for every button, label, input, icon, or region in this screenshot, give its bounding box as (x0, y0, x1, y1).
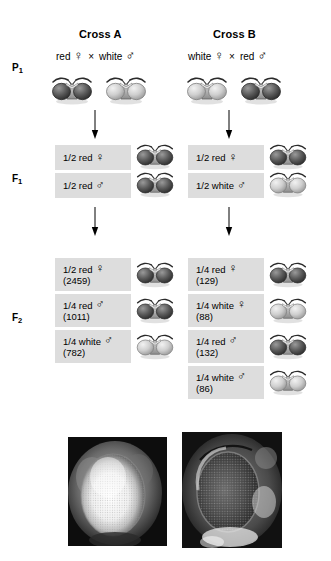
fly-head-icon-cross-a-f2-1 (134, 261, 176, 289)
mars-symbol: ♂ (96, 179, 105, 191)
ratio-text: 1/2 red (63, 152, 93, 163)
ratio-text: 1/4 white (196, 300, 234, 311)
cross-b-f2-row-2-count: (88) (196, 311, 258, 322)
fly-head-icon-cross-b-p1-mother (184, 76, 230, 106)
ratio-text: 1/4 red (63, 300, 93, 311)
cross-b-parental-cross-text: white ♀ × red ♂ (188, 50, 267, 63)
venus-symbol: ♀ (96, 151, 105, 163)
arrow-cross-a-f1-to-f2 (90, 207, 100, 237)
white-eye-photo (68, 437, 167, 546)
ratio-text: 1/4 red (196, 264, 226, 275)
mars-symbol: ♂ (96, 298, 105, 310)
cross-b-f2-row-1-count: (129) (196, 275, 258, 286)
ratio-text: 1/2 red (196, 152, 226, 163)
cross-a-f1-row-2-label: 1/2 red ♂ (63, 180, 125, 192)
fly-head-icon-cross-b-f2-4 (267, 369, 309, 397)
cross-b-f2-row-3: 1/4 red ♂ (132) (188, 330, 264, 363)
cross-symbol: × (229, 51, 235, 62)
cross-a-father-phenotype: white (99, 51, 122, 62)
ratio-text: 1/2 white (196, 180, 234, 191)
cross-symbol: × (88, 51, 94, 62)
fly-head-icon-cross-b-p1-father (238, 76, 284, 106)
ratio-text: 1/2 red (63, 264, 93, 275)
cross-a-f2-row-3: 1/4 white ♂ (782) (55, 330, 131, 363)
fly-head-icon-cross-a-f2-3 (134, 333, 176, 361)
fly-head-icon-cross-b-f2-3 (267, 333, 309, 361)
generation-label-f2: F2 (12, 312, 22, 323)
generation-label-f2-sub: 2 (18, 316, 22, 325)
cross-a-f2-row-2: 1/4 red ♂ (1011) (55, 294, 131, 327)
cross-b-f1-row-1-label: 1/2 red ♀ (196, 152, 258, 164)
fly-head-icon-cross-b-f2-2 (267, 297, 309, 325)
fly-head-icon-cross-a-p1-father (103, 76, 149, 106)
cross-b-f2-row-1-label: 1/4 red ♀ (196, 263, 258, 275)
cross-b-f2-row-4: 1/4 white ♂ (86) (188, 366, 264, 399)
arrow-cross-b-p1-to-f1 (224, 110, 234, 140)
cross-a-title: Cross A (79, 28, 121, 40)
cross-b-mother-phenotype: white (188, 51, 211, 62)
fly-head-icon-cross-a-f1-1 (134, 143, 176, 171)
cross-a-f1-row-1-label: 1/2 red ♀ (63, 152, 125, 164)
cross-a-f2-row-2-label: 1/4 red ♂ (63, 299, 125, 311)
cross-b-title: Cross B (213, 28, 256, 40)
cross-a-parental-cross-text: red ♀ × white ♂ (56, 50, 135, 63)
cross-b-father-phenotype: red (240, 51, 254, 62)
cross-a-f1-row-1: 1/2 red ♀ (55, 145, 131, 170)
generation-label-f1: F1 (12, 173, 22, 184)
cross-b-f1-row-2: 1/2 white ♂ (188, 173, 264, 198)
arrow-cross-a-p1-to-f1 (90, 110, 100, 140)
mars-symbol: ♂ (104, 334, 113, 346)
fly-head-icon-cross-b-f2-1 (267, 261, 309, 289)
venus-symbol: ♀ (229, 151, 238, 163)
cross-b-f2-row-3-label: 1/4 red ♂ (196, 335, 258, 347)
fly-head-icon-cross-b-f1-1 (267, 143, 309, 171)
mars-symbol: ♂ (237, 370, 246, 382)
red-eye-photo (182, 432, 282, 548)
cross-a-f2-row-1: 1/2 red ♀ (2459) (55, 258, 131, 291)
generation-label-p1-text: P (12, 62, 19, 73)
fly-head-icon-cross-a-f2-2 (134, 297, 176, 325)
cross-a-f2-row-1-label: 1/2 red ♀ (63, 263, 125, 275)
cross-b-f2-row-2: 1/4 white ♀ (88) (188, 294, 264, 327)
fly-head-icon-cross-a-f1-2 (134, 171, 176, 199)
ratio-text: 1/4 white (196, 372, 234, 383)
venus-symbol: ♀ (229, 262, 238, 274)
venus-symbol: ♀ (237, 298, 246, 310)
fly-head-icon-cross-a-p1-mother (49, 76, 95, 106)
cross-b-f2-row-3-count: (132) (196, 347, 258, 358)
fly-head-icon-cross-b-f1-2 (267, 171, 309, 199)
cross-b-f2-row-4-count: (86) (196, 383, 258, 394)
ratio-text: 1/4 red (196, 336, 226, 347)
generation-label-f1-sub: 1 (18, 177, 22, 186)
generation-label-p1: P1 (12, 62, 23, 73)
cross-a-f2-row-3-label: 1/4 white ♂ (63, 335, 125, 347)
cross-a-f2-row-1-count: (2459) (63, 275, 125, 286)
mars-symbol: ♂ (237, 179, 246, 191)
venus-symbol: ♀ (214, 49, 224, 62)
ratio-text: 1/2 red (63, 180, 93, 191)
cross-b-f2-row-1: 1/4 red ♀ (129) (188, 258, 264, 291)
cross-a-f2-row-2-count: (1011) (63, 311, 125, 322)
mars-symbol: ♂ (257, 49, 267, 62)
mars-symbol: ♂ (229, 334, 238, 346)
venus-symbol: ♀ (73, 49, 83, 62)
cross-a-mother-phenotype: red (56, 51, 70, 62)
cross-b-f1-row-2-label: 1/2 white ♂ (196, 180, 258, 192)
cross-b-f2-row-4-label: 1/4 white ♂ (196, 371, 258, 383)
ratio-text: 1/4 white (63, 336, 101, 347)
cross-a-f2-row-3-count: (782) (63, 347, 125, 358)
cross-b-f2-row-2-label: 1/4 white ♀ (196, 299, 258, 311)
arrow-cross-b-f1-to-f2 (224, 207, 234, 237)
generation-label-p1-sub: 1 (19, 66, 23, 75)
cross-b-f1-row-1: 1/2 red ♀ (188, 145, 264, 170)
mars-symbol: ♂ (125, 49, 135, 62)
cross-a-f1-row-2: 1/2 red ♂ (55, 173, 131, 198)
venus-symbol: ♀ (96, 262, 105, 274)
